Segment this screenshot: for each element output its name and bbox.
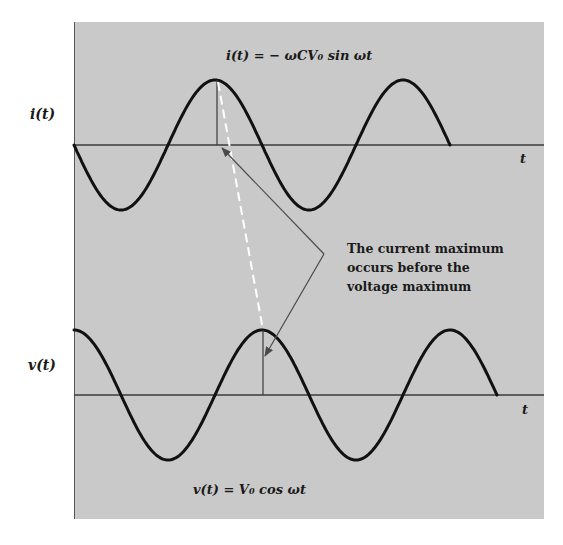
voltage-equation: v(t) = V₀ cos ωt (193, 482, 306, 497)
annotation-line-2: occurs before the (347, 260, 470, 275)
plot-panel (74, 22, 544, 519)
phase-diagram-figure: i(t) i(t) = − ωCV₀ sin ωt t v(t) v(t) = … (0, 0, 563, 545)
annotation-line-3: voltage maximum (346, 279, 471, 294)
current-time-label: t (520, 151, 526, 166)
current-axis-label: i(t) (30, 106, 55, 122)
voltage-time-label: t (522, 402, 528, 417)
annotation-line-1: The current maximum (347, 241, 504, 256)
current-equation: i(t) = − ωCV₀ sin ωt (226, 48, 372, 63)
voltage-axis-label: v(t) (28, 357, 56, 373)
